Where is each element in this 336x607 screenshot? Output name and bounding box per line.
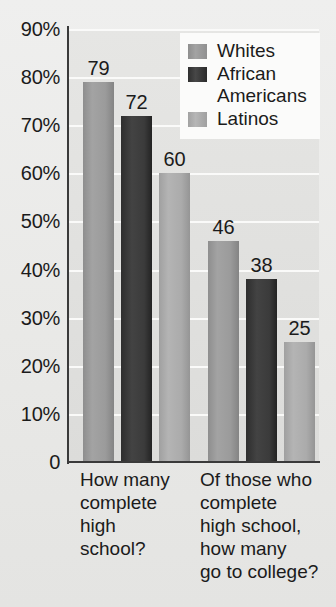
category-label-1: Of those who complete high school, how m…	[200, 468, 318, 583]
gridline-90	[69, 29, 319, 31]
bar-value-label-0-african-americans: 72	[125, 92, 147, 113]
y-tick-label-50: 50%	[21, 211, 60, 231]
y-tick-label-90: 90%	[21, 19, 60, 39]
y-axis: 010%20%30%40%50%60%70%80%90%	[0, 0, 64, 607]
bar-value-label-0-whites: 79	[87, 58, 109, 79]
legend-swatch-icon-latinos	[188, 112, 207, 127]
bar-value-label-1-african-americans: 38	[250, 255, 272, 276]
bar-0-latinos: 60	[159, 173, 190, 462]
legend: Whites African Americans Latinos	[180, 33, 320, 139]
x-axis-category-labels: How many complete high school? Of those …	[69, 468, 322, 603]
bar-1-whites: 46	[208, 241, 239, 462]
y-tick-label-40: 40%	[21, 260, 60, 280]
bar-chart: 010%20%30%40%50%60%70%80%90% 79726046382…	[0, 0, 336, 607]
legend-label-latinos: Latinos	[217, 108, 278, 130]
x-axis-line	[67, 461, 320, 463]
legend-item-african-americans: African Americans	[188, 63, 314, 107]
y-tick-label-70: 70%	[21, 115, 60, 135]
bar-value-label-0-latinos: 60	[163, 149, 185, 170]
bar-0-african-americans: 72	[121, 116, 152, 462]
y-tick-label-80: 80%	[21, 67, 60, 87]
legend-swatch-icon-african-americans	[188, 67, 207, 82]
category-label-0: How many complete high school?	[80, 468, 170, 560]
y-tick-label-20: 20%	[21, 356, 60, 376]
legend-swatch-icon-whites	[188, 44, 207, 59]
legend-item-whites: Whites	[188, 40, 314, 62]
y-tick-label-30: 30%	[21, 308, 60, 328]
y-axis-line	[67, 26, 69, 464]
legend-label-whites: Whites	[217, 40, 275, 62]
bar-1-latinos: 25	[284, 342, 315, 462]
bar-0-whites: 79	[83, 82, 114, 462]
y-tick-label-10: 10%	[21, 404, 60, 424]
legend-label-african-americans: African Americans	[217, 63, 307, 107]
y-tick-label-0: 0	[49, 452, 60, 472]
y-tick-label-60: 60%	[21, 163, 60, 183]
legend-item-latinos: Latinos	[188, 108, 314, 130]
bar-value-label-1-latinos: 25	[288, 318, 310, 339]
bar-1-african-americans: 38	[246, 279, 277, 462]
bar-value-label-1-whites: 46	[212, 217, 234, 238]
